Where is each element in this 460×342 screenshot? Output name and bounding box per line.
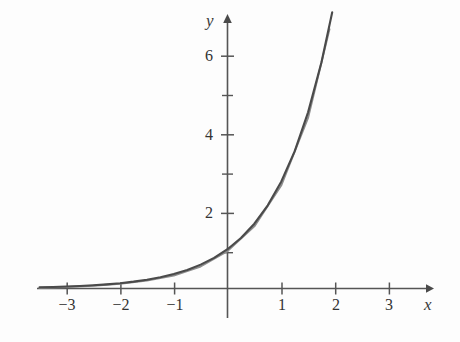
y-tick-label-4: 4 (195, 127, 213, 143)
x-tick-label-neg2: −2 (112, 297, 129, 313)
x-tick-label-neg1: −1 (166, 297, 183, 313)
y-tick-label-2: 2 (195, 205, 213, 221)
x-tick-label-3: 3 (385, 297, 393, 313)
exponential-curve-figure: y x −3 −2 −1 1 2 3 6 4 2 (0, 0, 460, 342)
y-tick-label-6: 6 (195, 48, 213, 64)
x-tick-label-2: 2 (332, 297, 340, 313)
y-axis-arrow-icon (223, 14, 232, 23)
x-axis-label: x (424, 296, 432, 313)
x-tick-label-neg3: −3 (58, 297, 75, 313)
y-axis-label: y (206, 12, 214, 29)
plot-canvas (0, 0, 460, 342)
x-axis-arrow-icon (426, 284, 434, 293)
y-axis (223, 14, 232, 318)
exponential-curve (40, 12, 333, 287)
approximation-polyline (40, 29, 330, 288)
x-tick-label-1: 1 (278, 297, 286, 313)
